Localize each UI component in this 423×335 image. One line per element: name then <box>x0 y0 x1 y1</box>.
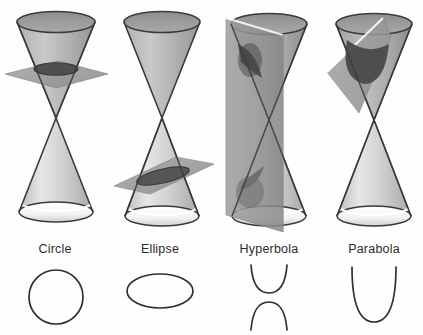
label-ellipse: Ellipse <box>141 242 179 256</box>
conic-sections-canvas: Circle <box>0 0 423 335</box>
curve-ellipse <box>127 274 193 308</box>
label-parabola: Parabola <box>348 242 400 256</box>
panel-circle: Circle <box>5 12 108 325</box>
cone-upper-nappe-ellipse <box>124 12 200 119</box>
panel-parabola: Parabola <box>327 14 412 323</box>
cone-lower-nappe-parabola <box>337 120 411 226</box>
curve-parabola <box>352 267 396 322</box>
intersection-circle <box>34 63 78 75</box>
cone-lower-nappe-circle <box>19 118 93 222</box>
curve-circle <box>29 270 83 324</box>
panel-hyperbola: Hyperbola <box>226 14 307 331</box>
label-circle: Circle <box>38 242 71 256</box>
conic-sections-figure: Circle <box>0 0 423 335</box>
label-hyperbola: Hyperbola <box>240 242 299 256</box>
curve-hyperbola <box>251 265 287 330</box>
panel-ellipse: Ellipse <box>114 12 214 309</box>
